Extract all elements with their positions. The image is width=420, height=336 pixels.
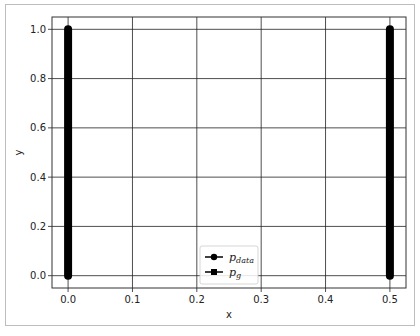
- x-tick-label: 0.2: [189, 294, 205, 305]
- y-tick-label: 1.0: [30, 24, 46, 35]
- chart: 0.00.10.20.30.40.50.00.20.40.60.81.0 x y…: [0, 0, 420, 336]
- x-tick-label: 0.0: [60, 294, 76, 305]
- x-tick-label: 0.3: [253, 294, 269, 305]
- series: [68, 29, 390, 275]
- y-tick-label: 0.6: [30, 122, 46, 133]
- y-tick-label: 0.2: [30, 221, 46, 232]
- y-tick-label: 0.4: [30, 172, 46, 183]
- legend-label-subscript: data: [236, 256, 254, 265]
- x-tick-label: 0.4: [318, 294, 334, 305]
- x-tick-label: 0.5: [382, 294, 398, 305]
- y-tick-label: 0.0: [30, 270, 46, 281]
- legend-circle-marker: [211, 254, 217, 260]
- y-tick-label: 0.8: [30, 73, 46, 84]
- legend-label-main: p: [229, 266, 236, 279]
- legend-label-subscript: g: [236, 271, 241, 280]
- x-axis-label: x: [226, 309, 232, 320]
- legend-label-main: p: [229, 251, 236, 264]
- legend: pdatapg: [200, 246, 258, 284]
- legend-square-marker: [211, 269, 217, 275]
- x-tick-label: 0.1: [125, 294, 141, 305]
- y-axis-label: y: [13, 149, 24, 155]
